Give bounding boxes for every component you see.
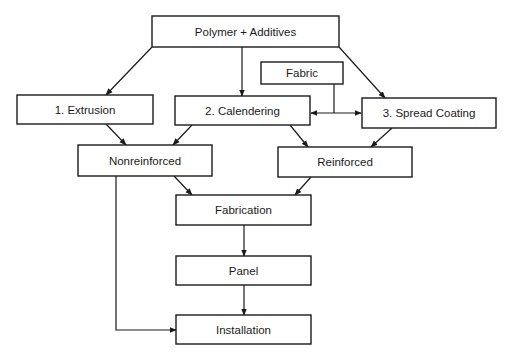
node-polymer-additives: Polymer + Additives [152,16,339,47]
edge-calendering-to-nonreinforced [173,125,192,145]
node-fabrication: Fabrication [176,195,311,225]
node-label: Nonreinforced [109,155,181,167]
node-label: 1. Extrusion [55,104,116,116]
edge-extrusion-to-nonreinforced [106,124,126,145]
edge-polymer-to-extrusion [106,47,152,95]
edge-polymer-to-spread-coating [339,47,385,98]
edges [106,47,392,330]
node-label: Fabrication [215,204,272,216]
node-label: Reinforced [317,156,373,168]
edge-nonreinforced-to-installation [116,176,176,330]
edge-calendering-to-reinforced [290,125,308,147]
node-panel: Panel [176,256,311,285]
node-reinforced: Reinforced [278,147,412,177]
edge-nonreinforced-to-fabrication [174,176,192,195]
node-installation: Installation [176,315,311,344]
node-spread-coating: 3. Spread Coating [362,98,496,128]
node-calendering: 2. Calendering [175,96,310,125]
node-fabric: Fabric [261,62,343,84]
node-label: Panel [229,265,258,277]
node-extrusion: 1. Extrusion [17,95,153,124]
node-label: Polymer + Additives [195,26,297,38]
node-label: Fabric [286,67,318,79]
node-label: 2. Calendering [205,105,280,117]
edge-reinforced-to-fabrication [295,177,311,195]
edge-spread-coating-to-reinforced [371,128,392,147]
node-nonreinforced: Nonreinforced [78,145,212,176]
flowchart-diagram: Polymer + Additives 1. Extrusion 2. Cale… [0,0,511,361]
node-label: 3. Spread Coating [383,107,476,119]
node-label: Installation [216,324,271,336]
